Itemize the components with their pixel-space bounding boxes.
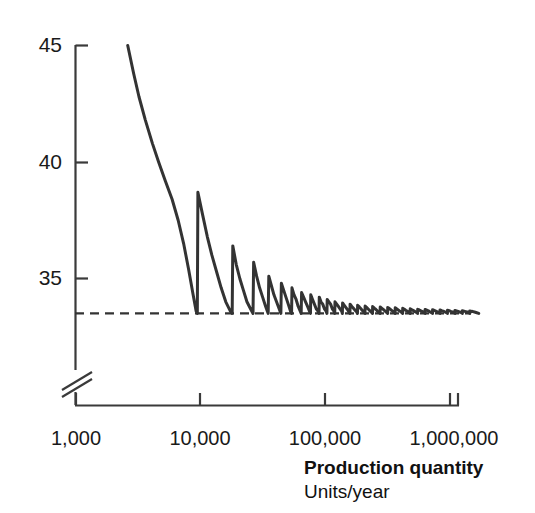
x-axis-units-label: Units/year [304, 481, 390, 503]
y-tick-label-40: 40 [6, 151, 62, 172]
y-axis-ticks [76, 46, 89, 279]
x-tick-label-10000: 10,000 [142, 428, 258, 448]
x-axis-title: Production quantity [304, 457, 483, 479]
x-tick-label-1000: 1,000 [26, 428, 126, 448]
x-tick-label-1000000: 1,000,000 [383, 428, 525, 448]
chart-container: 45 40 35 1,000 10,000 100,000 1,000,000 … [0, 0, 535, 513]
y-tick-label-45: 45 [6, 34, 62, 55]
y-tick-label-35: 35 [6, 267, 62, 288]
data-series-line [128, 46, 479, 314]
x-axis-ticks [76, 393, 458, 406]
x-tick-label-100000: 100,000 [264, 428, 386, 448]
